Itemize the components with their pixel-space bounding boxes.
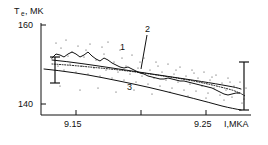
x-axis-title: I,MKA (224, 119, 249, 129)
axis-lines (41, 23, 251, 115)
dotted-mean-line (52, 64, 245, 96)
curve-label-3: 3 (127, 82, 132, 92)
x-tick-label-915: 9.15 (64, 119, 82, 129)
plot-frame (41, 23, 251, 115)
y-tick-label-140: 140 (18, 99, 33, 109)
y-tick-label-160: 160 (18, 20, 33, 30)
curve-3 (44, 69, 241, 110)
dotted-scatter-band (51, 39, 246, 103)
x-tick-label-925: 9.25 (194, 119, 212, 129)
y-axis-title-unit: , MK (25, 6, 44, 16)
y-axis-title-symbol: T (14, 6, 20, 16)
y-axis-title: T e , MK (14, 6, 44, 17)
curve-label-2: 2 (145, 24, 150, 34)
leader-line-curve-2 (141, 35, 147, 69)
temperature-current-chart: T e , MK 160 140 9.15 9.25 I,MKA (0, 0, 268, 145)
right-errorbar (239, 62, 249, 110)
curve-label-1: 1 (120, 42, 125, 52)
